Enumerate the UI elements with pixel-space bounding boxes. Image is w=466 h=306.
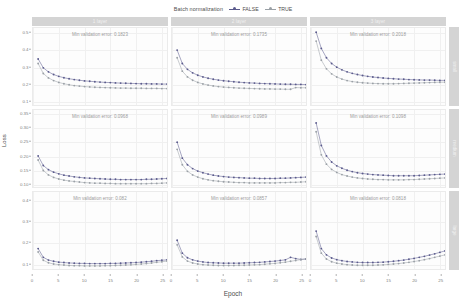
x-tick-mark	[162, 274, 163, 276]
series-point-true	[89, 265, 91, 267]
x-tick-label: 20	[412, 278, 417, 283]
series-line-true	[316, 237, 445, 266]
series-point-false	[109, 82, 111, 84]
series-point-true	[207, 264, 209, 266]
x-tick-label: 10	[221, 278, 226, 283]
legend-key-false[interactable]: FALSE	[229, 6, 259, 12]
series-canvas	[311, 192, 445, 269]
panel-small-3layer[interactable]: Min validation error: 0.2018	[310, 27, 446, 106]
y-tick-label: 0.5	[22, 30, 28, 35]
series-point-false	[300, 83, 302, 85]
panel-medium-1layer[interactable]: Min validation error: 0.0968	[32, 109, 168, 188]
series-point-false	[202, 172, 204, 174]
series-point-true	[356, 81, 358, 83]
panel-large-3layer[interactable]: Min validation error: 0.0818	[310, 191, 446, 270]
series-point-false	[346, 71, 348, 73]
series-point-false	[58, 75, 60, 77]
panel-small-2layer[interactable]: Min validation error: 0.1735	[171, 27, 307, 106]
series-point-true	[63, 179, 65, 181]
x-tick-mark	[301, 274, 302, 276]
y-tick-mark	[29, 83, 31, 84]
series-point-true	[145, 263, 147, 265]
series-point-true	[341, 263, 343, 265]
y-tick-mark	[29, 155, 31, 156]
series-point-true	[362, 264, 364, 266]
series-point-false	[351, 261, 353, 263]
series-point-false	[393, 260, 395, 262]
series-point-false	[42, 165, 44, 167]
series-point-true	[197, 176, 199, 178]
panel-row: Min validation error: 0.0968Min validati…	[32, 109, 446, 188]
series-point-true	[89, 86, 91, 88]
series-point-true	[145, 88, 147, 90]
series-point-true	[192, 174, 194, 176]
series-point-false	[212, 78, 214, 80]
x-tick-mark	[440, 274, 441, 276]
series-point-false	[94, 178, 96, 180]
series-point-false	[73, 79, 75, 81]
panel-medium-3layer[interactable]: Min validation error: 0.1098	[310, 109, 446, 188]
series-point-true	[279, 182, 281, 184]
series-point-true	[382, 179, 384, 181]
series-point-false	[89, 263, 91, 265]
x-tick-label: 5	[196, 278, 198, 283]
series-point-true	[367, 264, 369, 266]
panel-small-1layer[interactable]: Min validation error: 0.1823	[32, 27, 168, 106]
series-point-true	[331, 73, 333, 75]
y-tick-mark	[29, 127, 31, 128]
x-tick-label: 20	[134, 278, 139, 283]
y-tick-mark	[29, 32, 31, 33]
series-point-false	[176, 49, 178, 51]
x-tick-mark	[197, 274, 198, 276]
series-point-true	[408, 261, 410, 263]
series-point-false	[217, 175, 219, 177]
series-point-true	[130, 183, 132, 185]
series-point-true	[367, 82, 369, 84]
series-point-true	[151, 182, 153, 184]
series-point-false	[439, 173, 441, 175]
series-point-false	[89, 80, 91, 82]
series-point-true	[135, 263, 137, 265]
panel-medium-2layer[interactable]: Min validation error: 0.0989	[171, 109, 307, 188]
column-strip-label: 3 layer	[371, 19, 386, 24]
panel-large-2layer[interactable]: Min validation error: 0.0857	[171, 191, 307, 270]
series-line-true	[177, 245, 306, 266]
series-point-true	[140, 183, 142, 185]
series-point-false	[387, 77, 389, 79]
series-point-true	[290, 88, 292, 90]
x-tick-mark	[84, 274, 85, 276]
series-point-false	[372, 76, 374, 78]
y-axis-small: 0.10.20.30.40.5	[12, 27, 31, 106]
series-point-true	[238, 264, 240, 266]
series-point-false	[346, 261, 348, 263]
series-point-false	[413, 79, 415, 81]
series-point-false	[223, 176, 225, 178]
panel-annotation: Min validation error: 0.0989	[211, 114, 267, 119]
legend-key-true[interactable]: TRUE	[265, 6, 293, 12]
series-point-true	[254, 182, 256, 184]
series-point-true	[351, 264, 353, 266]
series-point-true	[58, 81, 60, 83]
series-point-true	[187, 260, 189, 262]
series-point-true	[393, 83, 395, 85]
series-point-false	[58, 173, 60, 175]
series-point-false	[135, 179, 137, 181]
y-tick-label: 0.1	[22, 261, 28, 266]
series-point-false	[166, 178, 167, 180]
series-point-false	[42, 67, 44, 69]
series-point-false	[135, 262, 137, 264]
panel-large-1layer[interactable]: Min validation error: 0.082	[32, 191, 168, 270]
series-point-true	[351, 81, 353, 83]
series-point-false	[130, 262, 132, 264]
series-point-true	[377, 179, 379, 181]
series-point-true	[362, 178, 364, 180]
series-point-false	[99, 178, 101, 180]
series-point-true	[89, 182, 91, 184]
series-point-true	[151, 88, 153, 90]
series-point-true	[439, 177, 441, 179]
series-point-true	[372, 264, 374, 266]
y-tick-label: 0.10	[20, 181, 29, 186]
x-tick-label: 0	[31, 278, 33, 283]
y-tick-mark	[29, 49, 31, 50]
legend-label-true: TRUE	[278, 6, 292, 12]
